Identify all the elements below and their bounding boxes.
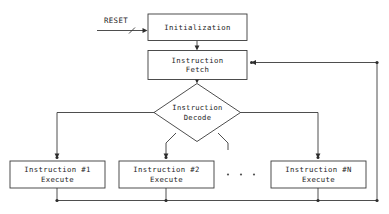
ellipsis-dot-3 <box>253 173 255 175</box>
node-instruction-2-execute[interactable]: Instruction #2 Execute <box>119 161 214 188</box>
instruction-n-execute-label-line2: Execute <box>302 175 335 184</box>
node-instruction-fetch[interactable]: Instruction Fetch <box>148 51 247 80</box>
instruction-n-execute-label-line1: Instruction #N <box>285 165 351 174</box>
instruction-1-execute-label-line1: Instruction #1 <box>24 165 90 174</box>
node-initialization[interactable]: Initialization <box>148 14 247 41</box>
node-instruction-1-execute[interactable]: Instruction #1 Execute <box>10 161 105 188</box>
edge-reset-to-initialization <box>97 28 148 34</box>
signal-reset: RESET <box>104 16 128 25</box>
edge-initialization-to-fetch <box>195 41 200 51</box>
edge-decode-to-instruction-n <box>240 113 320 160</box>
reset-label: RESET <box>104 16 128 25</box>
flowchart-svg: Initialization Instruction Fetch Instruc… <box>0 0 389 214</box>
instruction-2-execute-label-line1: Instruction #2 <box>133 165 199 174</box>
edge-decode-to-instruction-2 <box>164 133 176 159</box>
ellipsis-dot-2 <box>240 173 242 175</box>
instruction-fetch-label-line1: Instruction <box>171 56 223 65</box>
branch-ellipsis <box>227 173 255 175</box>
instruction-decode-label-line2: Decode <box>184 113 211 122</box>
ellipsis-dot-1 <box>227 173 229 175</box>
edge-feedback-bus <box>55 188 378 202</box>
instruction-1-execute-label-line2: Execute <box>41 175 74 184</box>
instruction-2-execute-label-line2: Execute <box>150 175 183 184</box>
initialization-label-line1: Initialization <box>164 23 230 32</box>
node-instruction-decode[interactable]: Instruction Decode <box>154 84 241 142</box>
instruction-fetch-label-line2: Fetch <box>186 65 210 74</box>
instruction-decode-label-line1: Instruction <box>172 103 222 112</box>
edge-decode-stub <box>218 133 228 150</box>
edge-decode-to-instruction-1 <box>55 113 155 160</box>
node-instruction-n-execute[interactable]: Instruction #N Execute <box>271 161 366 188</box>
flowchart-canvas: Initialization Instruction Fetch Instruc… <box>0 0 389 214</box>
